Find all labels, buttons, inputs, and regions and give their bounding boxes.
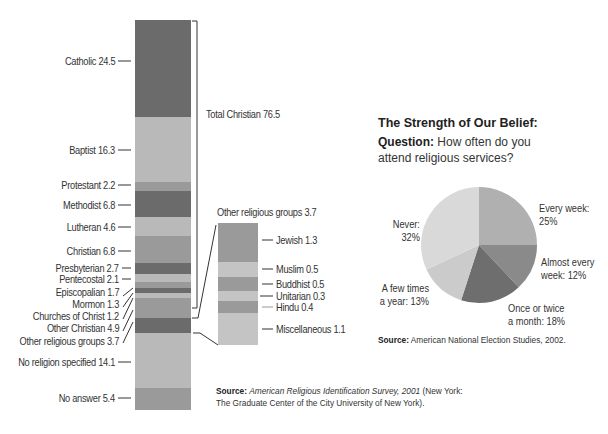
label-miscellaneous: Miscellaneous 1.1 bbox=[276, 323, 345, 335]
source-line2: The Graduate Center of the City Universi… bbox=[216, 397, 463, 409]
label-mormon: Mormon 1.3 bbox=[72, 298, 119, 310]
pie-label-once-line2: a month: 18% bbox=[508, 315, 565, 328]
pie-label-once-or-twice: Once or twice a month: 18% bbox=[508, 302, 565, 328]
pie-question: Question: How often do you attend religi… bbox=[378, 134, 608, 166]
label-no-religion: No religion specified 14.1 bbox=[18, 356, 115, 368]
bar-segment-other-christian bbox=[135, 298, 191, 318]
pie-label-almost-every-week: Almost every week: 12% bbox=[541, 256, 594, 282]
label-other-christian: Other Christian 4.9 bbox=[46, 322, 119, 334]
pie-label-few-line2: a year: 13% bbox=[380, 295, 429, 308]
sub-segment-buddhist bbox=[218, 277, 258, 291]
pie-slice-few-times bbox=[427, 245, 480, 300]
label-other-religious-groups: Other religious groups 3.7 bbox=[20, 335, 119, 347]
source-publisher: (New York: bbox=[420, 386, 462, 396]
label-no-answer: No answer 5.4 bbox=[59, 392, 115, 404]
label-buddhist: Buddhist 0.5 bbox=[276, 278, 324, 290]
pie-label-once-line1: Once or twice bbox=[508, 302, 565, 315]
pie-label-every-week-line1: Every week: bbox=[539, 202, 589, 215]
bar-segment-other-religious-groups bbox=[135, 318, 191, 333]
label-baptist: Baptist 16.3 bbox=[69, 144, 115, 156]
label-methodist: Methodist 6.8 bbox=[63, 199, 115, 211]
pie-slice-every-week bbox=[479, 187, 537, 245]
pie-label-few-line1: A few times bbox=[380, 282, 429, 295]
question-prefix: Question: bbox=[378, 135, 434, 149]
source-note-religion: Source: American Religious Identificatio… bbox=[216, 385, 463, 409]
label-jewish: Jewish 1.3 bbox=[276, 234, 317, 246]
label-catholic: Catholic 24.5 bbox=[64, 55, 115, 67]
pie-chart bbox=[421, 187, 537, 303]
pie-slice-almost-every-week bbox=[479, 245, 537, 287]
main-stacked-bar bbox=[135, 20, 191, 410]
sub-segment-miscellaneous bbox=[218, 313, 258, 345]
pie-label-every-week-line2: 25% bbox=[539, 215, 589, 228]
bar-segment-catholic bbox=[135, 20, 191, 117]
question-text-2: attend religious services? bbox=[378, 150, 608, 166]
label-episcopalian: Episcopalian 1.7 bbox=[55, 286, 119, 298]
source-note-pie: Source: American National Election Studi… bbox=[378, 334, 566, 346]
bar-segment-lutheran bbox=[135, 217, 191, 236]
sub-stacked-bar bbox=[218, 223, 258, 345]
label-total-christian: Total Christian 76.5 bbox=[206, 108, 280, 120]
bar-segment-protestant bbox=[135, 182, 191, 191]
label-protestant: Protestant 2.2 bbox=[61, 179, 115, 191]
pie-slice-never bbox=[421, 187, 479, 270]
pie-label-few-times: A few times a year: 13% bbox=[380, 282, 429, 308]
source-prefix: Source: bbox=[216, 386, 247, 396]
label-muslim: Muslim 0.5 bbox=[276, 263, 318, 275]
label-hindu: Hindu 0.4 bbox=[276, 301, 313, 313]
bar-segment-methodist bbox=[135, 191, 191, 217]
pie-slice-once-or-twice bbox=[461, 245, 519, 303]
sub-bar-title: Other religious groups 3.7 bbox=[217, 206, 316, 218]
bar-segment-baptist bbox=[135, 117, 191, 182]
pie-label-every-week: Every week: 25% bbox=[539, 202, 589, 228]
pie-source-text: American National Election Studies, 2002… bbox=[409, 335, 566, 345]
label-churches-of-christ: Churches of Christ 1.2 bbox=[33, 310, 119, 322]
pie-label-never: Never: 32% bbox=[393, 218, 420, 244]
label-lutheran: Lutheran 4.6 bbox=[66, 221, 115, 233]
sub-segment-hindu bbox=[218, 301, 258, 313]
sub-segment-jewish bbox=[218, 223, 258, 262]
pie-label-never-line1: Never: bbox=[393, 218, 420, 231]
sub-segment-unitarian bbox=[218, 291, 258, 301]
source-title: American Religious Identification Survey… bbox=[249, 386, 420, 396]
pie-title: The Strength of Our Belief: bbox=[378, 116, 538, 130]
label-christian: Christian 6.8 bbox=[67, 245, 115, 257]
pie-source-prefix: Source: bbox=[378, 335, 409, 345]
sub-segment-muslim bbox=[218, 262, 258, 277]
bar-segment-pentecostal bbox=[135, 274, 191, 282]
bar-segment-presbyterian bbox=[135, 263, 191, 274]
pie-label-almost-line2: week: 12% bbox=[541, 269, 594, 282]
pie-label-almost-line1: Almost every bbox=[541, 256, 594, 269]
question-text-1: How often do you bbox=[434, 135, 531, 149]
bar-segment-christian bbox=[135, 236, 191, 263]
pie-label-never-line2: 32% bbox=[393, 231, 420, 244]
bar-segment-no-religion bbox=[135, 333, 191, 388]
bar-segment-no-answer bbox=[135, 388, 191, 410]
label-pentecostal: Pentecostal 2.1 bbox=[59, 273, 119, 285]
